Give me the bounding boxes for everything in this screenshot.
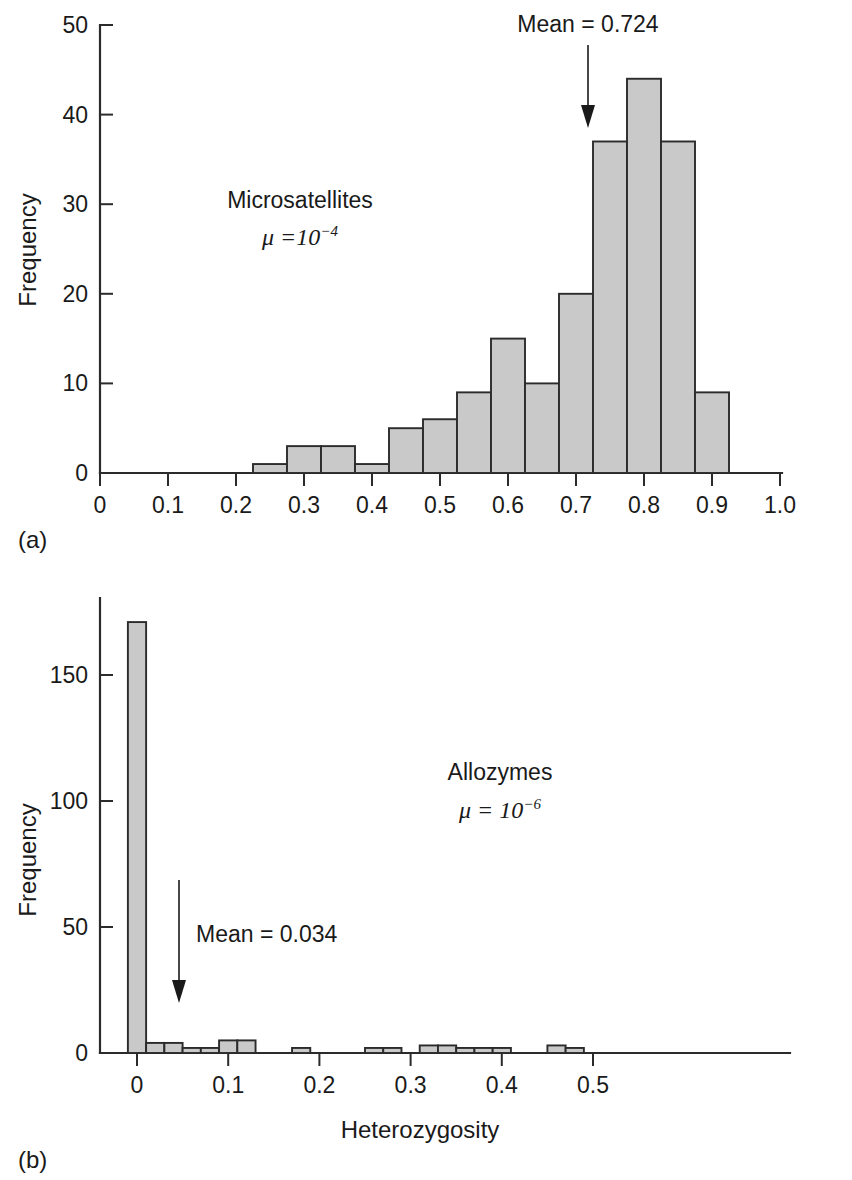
panel-a-annotation-title: Microsatellites [227,187,373,213]
panel-a-x-tick-label: 0.1 [152,492,184,518]
panel-a-bar-series [253,79,729,473]
histogram-bar [355,464,389,473]
panel-a-x-tick-label: 0 [94,492,107,518]
panel-b-allozymes: 0 50 100 150 0 0.1 0.2 0.3 0.4 0.5 [0,560,852,1180]
panel-a-x-tick-label: 0.2 [220,492,252,518]
figure-container: 0 10 20 30 40 50 [0,0,852,1180]
histogram-bar [321,446,355,473]
histogram-bar [219,1040,237,1053]
panel-b-x-ticks [137,1053,593,1066]
histogram-bar [547,1045,565,1053]
histogram-bar [146,1043,164,1053]
histogram-bar [474,1048,492,1053]
histogram-bar [457,392,491,473]
panel-a-x-tick-label: 0.5 [424,492,456,518]
panel-b-x-tick-label: 0 [131,1072,144,1098]
panel-b-y-tick-label: 0 [75,1040,88,1066]
panel-a-y-axis-title: Frequency [14,193,41,306]
panel-b-annotation-block: Allozymes μ = 10−6 [448,759,553,823]
panel-b-mean-annotation: Mean = 0.034 [172,880,338,1003]
panel-b-y-tick-label: 150 [50,662,88,688]
panel-a-mean-label: Mean = 0.724 [517,11,659,37]
panel-a-y-tick-labels: 0 10 20 30 40 50 [62,12,88,486]
panel-b-bar-series [128,622,584,1053]
histogram-bar [383,1048,401,1053]
panel-b-y-tick-label: 100 [50,788,88,814]
histogram-bar [253,464,287,473]
panel-b-annotation-mu: μ = 10−6 [458,796,541,823]
histogram-bar [292,1048,310,1053]
histogram-bar [593,141,627,473]
panel-a-y-tick-label: 0 [75,460,88,486]
panel-a-y-tick-label: 40 [62,102,88,128]
panel-a-x-tick-label: 0.3 [288,492,320,518]
panel-b-x-tick-label: 0.3 [395,1072,427,1098]
panel-a-x-tick-label: 0.7 [560,492,592,518]
panel-b-y-axis-title: Frequency [14,803,41,916]
panel-b-y-tick-label: 50 [62,914,88,940]
histogram-bar [164,1043,182,1053]
panel-a-x-tick-label: 0.4 [356,492,388,518]
panel-b-x-tick-label: 0.5 [577,1072,609,1098]
histogram-bar [438,1045,456,1053]
panel-a-x-tick-label: 0.6 [492,492,524,518]
panel-a-chart: 0 10 20 30 40 50 [0,0,852,560]
histogram-bar [695,392,729,473]
panel-a-microsatellites: 0 10 20 30 40 50 [0,0,852,560]
panel-b-y-ticks [100,675,113,1053]
histogram-bar [389,428,423,473]
panel-a-y-tick-label: 50 [62,12,88,38]
histogram-bar [456,1048,474,1053]
panel-a-y-tick-label: 20 [62,281,88,307]
panel-b-x-tick-labels: 0 0.1 0.2 0.3 0.4 0.5 [131,1072,609,1098]
panel-b-letter: (b) [18,1146,47,1173]
histogram-bar [566,1048,584,1053]
panel-a-x-tick-label: 0.8 [628,492,660,518]
panel-a-y-tick-label: 10 [62,370,88,396]
histogram-bar [559,294,593,473]
histogram-bar [287,446,321,473]
panel-a-x-ticks [100,473,780,486]
histogram-bar [128,622,146,1053]
panel-a-y-tick-label: 30 [62,191,88,217]
panel-b-x-tick-label: 0.2 [303,1072,335,1098]
panel-a-x-tick-label: 1.0 [764,492,796,518]
panel-a-x-tick-label: 0.9 [696,492,728,518]
histogram-bar [183,1048,201,1053]
histogram-bar [365,1048,383,1053]
panel-b-mean-label: Mean = 0.034 [196,921,338,947]
panel-b-mean-arrow-head [172,980,186,1003]
histogram-bar [525,383,559,473]
panel-b-x-tick-label: 0.1 [212,1072,244,1098]
panel-b-annotation-title: Allozymes [448,759,553,785]
panel-b-y-tick-labels: 0 50 100 150 [50,662,88,1066]
histogram-bar [237,1040,255,1053]
panel-a-y-ticks [100,25,113,473]
panel-a-letter: (a) [18,526,47,553]
panel-a-annotation-block: Microsatellites μ =10−4 [227,187,373,250]
panel-b-x-axis-title: Heterozygosity [341,1116,500,1143]
histogram-bar [423,419,457,473]
histogram-bar [491,339,525,473]
panel-b-x-tick-label: 0.4 [486,1072,518,1098]
histogram-bar [201,1048,219,1053]
panel-a-x-tick-labels: 0 0.1 0.2 0.3 0.4 0.5 0.6 0.7 0.8 0.9 1.… [94,492,796,518]
panel-b-axes [100,598,790,1053]
panel-b-chart: 0 50 100 150 0 0.1 0.2 0.3 0.4 0.5 [0,560,852,1180]
histogram-bar [493,1048,511,1053]
histogram-bar [420,1045,438,1053]
histogram-bar [661,141,695,473]
panel-a-mean-arrow-head [581,105,595,128]
histogram-bar [627,79,661,473]
panel-a-annotation-mu: μ =10−4 [261,223,338,250]
